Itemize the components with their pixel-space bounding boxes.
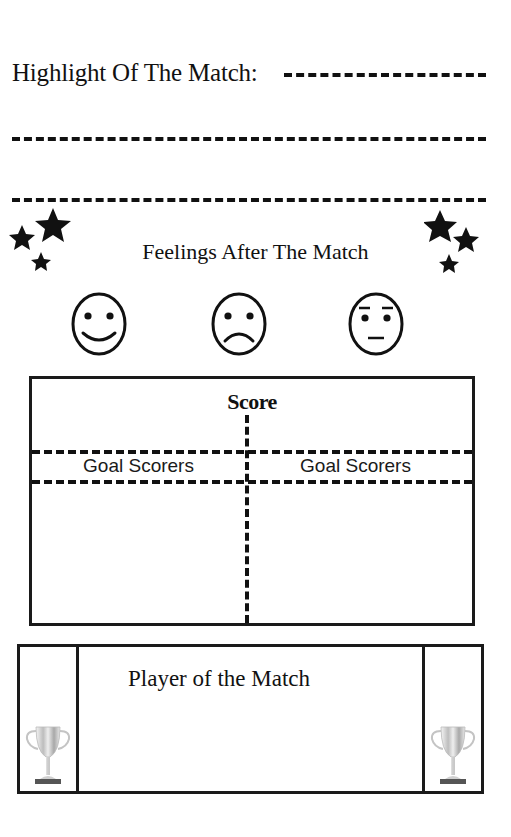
highlight-blank-line-3[interactable] xyxy=(12,198,486,202)
happy-face-icon[interactable] xyxy=(69,291,129,357)
player-of-match-area[interactable] xyxy=(82,699,418,787)
goal-scorers-bottom-divider xyxy=(32,480,472,484)
highlight-title-text: Highlight Of The Match: xyxy=(12,59,258,86)
potm-left-divider xyxy=(76,647,79,791)
highlight-blank-line-1[interactable] xyxy=(284,73,486,77)
score-away-area[interactable] xyxy=(251,415,472,449)
score-column-divider xyxy=(245,415,249,623)
goal-scorers-left-area[interactable] xyxy=(32,485,243,623)
trophy-right-icon xyxy=(429,725,477,787)
highlight-blank-line-2[interactable] xyxy=(12,137,486,141)
sad-face-icon[interactable] xyxy=(209,291,269,357)
score-box: Score Goal Scorers Goal Scorers xyxy=(29,376,475,626)
goal-scorers-left-label: Goal Scorers xyxy=(32,453,245,479)
potm-right-divider xyxy=(422,647,425,791)
neutral-face-icon[interactable] xyxy=(346,291,406,357)
score-home-area[interactable] xyxy=(32,379,243,449)
trophy-left-icon xyxy=(24,725,72,787)
stars-right-icon xyxy=(424,208,484,276)
goal-scorers-right-label: Goal Scorers xyxy=(249,453,462,479)
player-of-match-box: Player of the Match xyxy=(17,644,484,794)
goal-scorers-right-area[interactable] xyxy=(251,485,472,623)
highlight-title: Highlight Of The Match: xyxy=(12,58,258,88)
player-of-match-title: Player of the Match xyxy=(128,665,310,693)
